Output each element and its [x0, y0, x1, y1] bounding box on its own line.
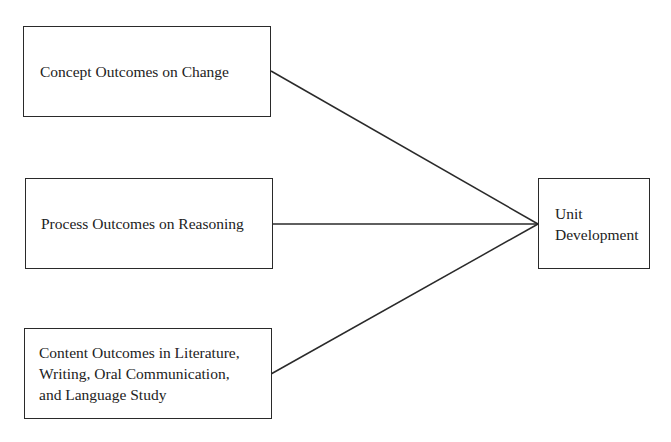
node-concept-outcomes: Concept Outcomes on Change [23, 26, 271, 117]
node-process-label: Process Outcomes on Reasoning [41, 213, 244, 234]
node-unit-development: Unit Development [538, 178, 650, 269]
edge-concept-to-unit [271, 71, 538, 224]
node-concept-label: Concept Outcomes on Change [40, 61, 229, 82]
node-process-outcomes: Process Outcomes on Reasoning [25, 178, 273, 269]
node-content-label: Content Outcomes in Literature, Writing,… [39, 342, 240, 405]
node-content-outcomes: Content Outcomes in Literature, Writing,… [24, 328, 272, 419]
node-unit-label: Unit Development [555, 203, 639, 245]
edge-content-to-unit [271, 224, 538, 374]
